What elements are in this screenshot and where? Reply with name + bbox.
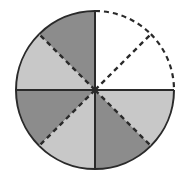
fraction-circle-diagram xyxy=(0,0,185,174)
divider-lines xyxy=(16,11,174,169)
